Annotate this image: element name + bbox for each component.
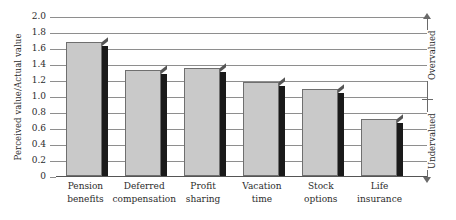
bar-shadow <box>397 123 403 176</box>
bar-shadow-top <box>220 63 226 72</box>
x-axis-line <box>56 176 428 177</box>
y-axis-tick-label: 1.6 <box>20 44 46 53</box>
y-axis-tick-label: 1.4 <box>20 60 46 69</box>
bar-slot <box>125 17 161 176</box>
plot-area <box>56 17 409 177</box>
y-axis-tick-label: 1.2 <box>20 76 46 85</box>
bar <box>184 68 220 176</box>
bar-slot <box>302 17 338 176</box>
bar-shadow-top <box>102 38 108 47</box>
arrow-up-icon <box>423 13 431 19</box>
arrow-down-icon <box>423 177 431 183</box>
category-label-line: Life <box>342 180 417 193</box>
bar-shadow-top <box>338 84 344 93</box>
y-axis-tick-label: 1.0 <box>20 92 46 101</box>
x-axis-category-label: Lifeinsurance <box>342 180 417 205</box>
bar-shadow <box>102 46 108 176</box>
bar-shadow <box>338 93 344 176</box>
bar-shadow <box>161 74 167 176</box>
y-axis-tick-mark <box>50 177 56 178</box>
y-axis-tick-label: 0.4 <box>20 140 46 149</box>
y-axis-tick-label: 0.6 <box>20 124 46 133</box>
bar-shadow <box>279 86 285 176</box>
bar <box>66 42 102 176</box>
bar-chart-figure: Perceived value/Actual value 2.01.81.61.… <box>0 0 456 220</box>
bar-slot <box>66 17 102 176</box>
undervalued-label: Undervalued <box>427 112 437 170</box>
x-axis-category-labels: PensionbenefitsDeferredcompensationProfi… <box>56 180 409 218</box>
y-axis-tick-label: 2.0 <box>20 12 46 21</box>
bar <box>243 82 279 176</box>
bar <box>302 89 338 176</box>
bar-series <box>56 17 409 176</box>
bar-shadow <box>220 72 226 176</box>
bar-slot <box>184 17 220 176</box>
bar-shadow-top <box>279 77 285 86</box>
y-axis-tick-labels: 2.01.81.61.41.21.00.80.60.40.20 <box>18 0 46 220</box>
bar-shadow-top <box>397 115 403 124</box>
bar-slot <box>361 17 397 176</box>
bar <box>125 70 161 176</box>
bar <box>361 119 397 176</box>
category-label-line: insurance <box>342 193 417 206</box>
bar-slot <box>243 17 279 176</box>
overvalued-label: Overvalued <box>427 30 437 81</box>
y-axis-tick-label: 0.8 <box>20 108 46 117</box>
y-axis-tick-label: 1.8 <box>20 28 46 37</box>
neutral-value-marker-icon <box>422 94 433 105</box>
y-axis-tick-label: 0 <box>20 172 46 181</box>
valuation-annotation-axis: Overvalued Undervalued <box>418 13 456 183</box>
y-axis-tick-label: 0.2 <box>20 156 46 165</box>
bar-shadow-top <box>161 65 167 74</box>
